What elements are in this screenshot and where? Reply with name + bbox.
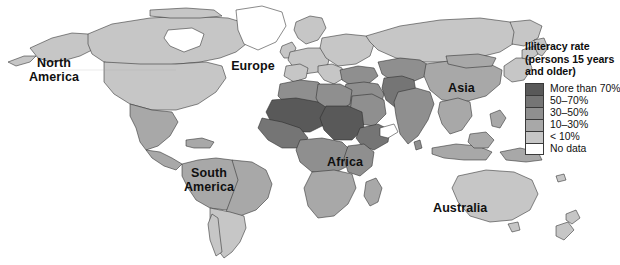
legend-label-10-30: 10–30% [550, 119, 588, 131]
legend-label-no-data: No data [550, 143, 586, 155]
legend-item-30-50: 30–50% [525, 107, 620, 119]
legend-swatch-30-50 [525, 107, 544, 119]
legend-swatch-more-than-70 [525, 83, 544, 95]
legend-title-line3: and older) [525, 65, 620, 78]
legend-item-10-30: 10–30% [525, 119, 620, 131]
legend-label-less-than-10: < 10% [550, 131, 580, 143]
world-illiteracy-map-figure: .land{stroke:#2b2b2b;stroke-width:0.55;s… [0, 0, 620, 265]
legend-item-less-than-10: < 10% [525, 131, 620, 143]
map-legend: Illiteracy rate (persons 15 years and ol… [525, 40, 620, 155]
legend-items: More than 70% 50–70% 30–50% 10–30% < 10% [525, 83, 620, 155]
legend-label-more-than-70: More than 70% [550, 83, 620, 95]
legend-swatch-50-70 [525, 95, 544, 107]
legend-title-line1: Illiteracy rate [525, 40, 620, 53]
legend-title: Illiteracy rate (persons 15 years and ol… [525, 40, 620, 78]
legend-swatch-no-data [525, 143, 544, 155]
legend-label-50-70: 50–70% [550, 95, 588, 107]
legend-label-30-50: 30–50% [550, 107, 588, 119]
legend-swatch-10-30 [525, 119, 544, 131]
legend-item-no-data: No data [525, 143, 620, 155]
legend-swatch-less-than-10 [525, 131, 544, 143]
legend-title-line2: (persons 15 years [525, 53, 620, 66]
legend-item-more-than-70: More than 70% [525, 83, 620, 95]
legend-item-50-70: 50–70% [525, 95, 620, 107]
